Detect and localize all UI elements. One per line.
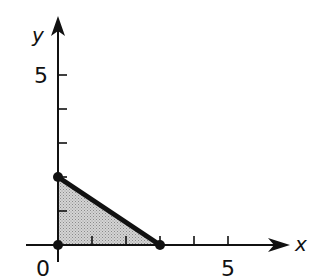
x-axis-label: x bbox=[294, 232, 307, 256]
coordinate-plane: y x 5 0 5 bbox=[0, 0, 321, 280]
origin-label: 0 bbox=[36, 256, 50, 280]
y-axis-label: y bbox=[31, 23, 45, 47]
vertex-point-x-intercept bbox=[155, 240, 165, 250]
y-tick-label-5: 5 bbox=[34, 63, 48, 88]
vertex-point-y-intercept bbox=[53, 172, 63, 182]
vertex-point-origin bbox=[53, 240, 63, 250]
x-tick-label-5: 5 bbox=[221, 256, 235, 280]
